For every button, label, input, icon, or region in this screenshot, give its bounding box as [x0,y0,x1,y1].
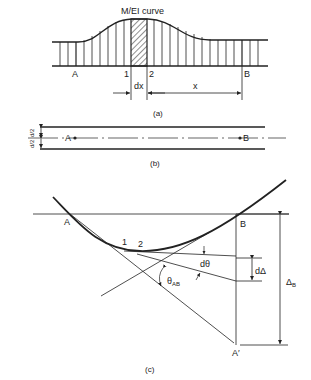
ordinate-lines [60,20,258,66]
figure-b: A B d/2 d/2 (b) [28,127,286,168]
point-b-dot [238,136,241,139]
beam-deflection-diagram: M/EI curve A 1 2 B dx x (a) A B d/2 d/2 … [0,0,311,380]
label-b: B [244,69,250,79]
label-a-prime: A′ [232,348,240,358]
point-a-dot [73,136,76,139]
label-1: 1 [124,69,129,79]
caption-a: (a) [153,109,163,118]
hatched-strip-dx [131,19,147,66]
d-delta-label: dΔ [255,266,266,276]
label-b-c: B [240,219,246,229]
label-2-c: 2 [138,239,143,249]
label-1-c: 1 [122,237,127,247]
dx-label: dx [134,81,144,91]
label-a-c: A [64,217,70,227]
label-2: 2 [149,69,154,79]
label-b-b: B [243,133,249,143]
elastic-curve [53,180,286,251]
caption-b: (b) [150,159,160,168]
tangent-at-b [101,232,210,296]
d-theta-label: dθ [200,259,210,269]
label-a-b: A [65,133,71,143]
figure-c: A B 1 2 dθ θAB dΔ ΔB A′ (c) [33,180,296,374]
dim-bottom-half-depth: d/2 [29,139,35,148]
tangent-at-2 [137,254,236,281]
dim-top-half-depth: d/2 [29,128,35,137]
tangent-at-a [70,214,234,343]
curve-label: M/EI curve [121,6,164,16]
x-label: x [193,81,198,91]
delta-b-label: ΔB [286,277,296,288]
figure-a: M/EI curve A 1 2 B dx x (a) [52,6,268,118]
theta-ab-arc [159,268,163,286]
theta-ab-label: θAB [167,276,180,287]
m-ei-curve [52,19,268,42]
label-a: A [72,69,78,79]
caption-c: (c) [145,365,155,374]
